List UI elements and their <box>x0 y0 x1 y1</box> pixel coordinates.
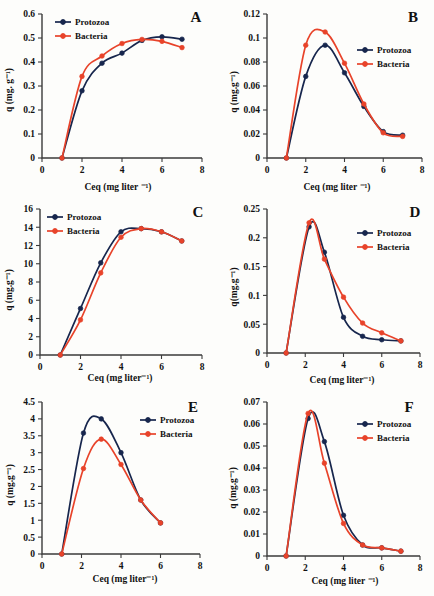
data-point-bacteria <box>119 235 124 240</box>
data-point-bacteria <box>341 521 346 526</box>
y-tick-label: 0.5 <box>23 33 35 43</box>
data-point-protozoa <box>160 35 165 40</box>
legend-label-bacteria: Bacteria <box>75 31 108 41</box>
x-tick-label: 0 <box>38 362 43 372</box>
x-tick-label: 2 <box>80 165 85 175</box>
data-point-protozoa <box>81 431 86 436</box>
data-point-bacteria <box>119 462 124 467</box>
y-tick-label: 0.05 <box>243 320 260 330</box>
legend-label-protozoa: Protozoa <box>160 415 195 425</box>
y-tick-label: 0.15 <box>243 262 260 272</box>
panel-letter: A <box>191 9 202 25</box>
x-axis-title: Ceq (mg liter ⁻¹) <box>84 182 151 193</box>
y-tick-label: 14 <box>24 223 34 233</box>
x-tick-label: 4 <box>120 165 125 175</box>
x-tick-label: 6 <box>379 563 384 573</box>
data-point-bacteria <box>303 43 308 48</box>
y-tick-label: 4 <box>28 314 33 324</box>
legend-marker-protozoa <box>53 215 58 220</box>
chart-panel-c: 024680246810121416Ceq (mg liter⁻¹)q (mg.… <box>0 195 217 390</box>
data-point-protozoa <box>341 315 346 320</box>
chart-panel-e: 0246800.511.522.533.544.5Ceq (mg liter⁻¹… <box>0 390 217 596</box>
legend-label-bacteria: Bacteria <box>377 433 410 443</box>
data-point-bacteria <box>322 461 327 466</box>
legend-label-bacteria: Bacteria <box>67 226 100 236</box>
x-tick-label: 6 <box>381 165 386 175</box>
data-point-bacteria <box>138 498 143 503</box>
data-point-bacteria <box>284 351 289 356</box>
panel-letter: E <box>188 399 198 415</box>
y-axis-title: q (mg.g⁻¹) <box>4 269 15 311</box>
y-axis-title: q (mg.g⁻¹) <box>229 71 240 113</box>
data-point-bacteria <box>81 466 86 471</box>
y-tick-label: 2 <box>30 482 35 492</box>
x-tick-label: 0 <box>265 563 270 573</box>
x-tick-label: 6 <box>379 360 384 370</box>
x-axis-title: Ceq (mg liter⁻¹) <box>310 375 375 386</box>
panel-letter: B <box>408 9 418 25</box>
y-tick-label: 0.06 <box>243 419 260 429</box>
data-point-bacteria <box>284 554 289 559</box>
y-tick-label: 4 <box>30 414 35 424</box>
y-tick-label: 0.04 <box>243 463 260 473</box>
data-point-bacteria <box>306 411 311 416</box>
x-tick-label: 8 <box>420 165 425 175</box>
x-tick-label: 4 <box>119 362 124 372</box>
y-tick-label: 3 <box>30 448 35 458</box>
data-point-bacteria <box>399 549 404 554</box>
data-point-bacteria <box>98 271 103 276</box>
y-tick-label: 0.05 <box>243 441 260 451</box>
y-tick-label: 10 <box>24 259 34 269</box>
x-tick-label: 4 <box>342 165 347 175</box>
y-tick-label: 0 <box>30 549 35 559</box>
y-tick-label: 0.04 <box>243 105 260 115</box>
data-point-bacteria <box>139 226 144 231</box>
y-axis-title: q (mg. g⁻¹) <box>4 68 15 112</box>
data-point-bacteria <box>160 39 165 44</box>
y-tick-label: 1 <box>30 516 35 526</box>
x-tick-label: 2 <box>303 360 308 370</box>
x-tick-label: 2 <box>303 563 308 573</box>
legend-marker-protozoa <box>363 422 368 427</box>
data-point-bacteria <box>80 74 85 79</box>
data-point-bacteria <box>342 61 347 66</box>
chart-panel-f: 0246800.010.020.030.040.050.060.07Ceq (m… <box>217 390 434 596</box>
y-tick-label: 0.01 <box>243 529 260 539</box>
y-tick-label: 0.1 <box>248 291 260 301</box>
data-point-protozoa <box>342 71 347 76</box>
y-axis-title: q (mg.g⁻¹) <box>228 467 239 509</box>
series-line-bacteria <box>60 228 182 355</box>
legend-marker-bacteria <box>363 245 368 250</box>
data-point-bacteria <box>140 37 145 42</box>
series-line-protozoa <box>62 416 161 554</box>
data-point-protozoa <box>322 439 327 444</box>
data-point-bacteria <box>58 353 63 358</box>
y-tick-label: 0.2 <box>248 233 260 243</box>
data-point-bacteria <box>323 30 328 35</box>
data-point-protozoa <box>360 334 365 339</box>
data-point-bacteria <box>60 156 65 161</box>
y-tick-label: 0.07 <box>243 397 260 407</box>
y-tick-label: 0 <box>255 153 260 163</box>
data-point-bacteria <box>158 521 163 526</box>
series-line-bacteria <box>62 439 161 554</box>
y-axis-title: q (mg.g⁻¹) <box>5 464 16 506</box>
legend-marker-bacteria <box>363 62 368 67</box>
data-point-protozoa <box>379 337 384 342</box>
x-tick-label: 2 <box>78 362 83 372</box>
legend-marker-protozoa <box>61 20 66 25</box>
x-axis-title: Ceq (mg liter⁻¹) <box>88 373 153 384</box>
data-point-bacteria <box>379 331 384 336</box>
y-tick-label: 8 <box>28 277 33 287</box>
legend-marker-bacteria <box>146 432 151 437</box>
x-tick-label: 4 <box>119 561 124 571</box>
legend-marker-protozoa <box>146 418 151 423</box>
y-tick-label: 0.4 <box>23 57 35 67</box>
data-point-bacteria <box>400 134 405 139</box>
data-point-bacteria <box>78 318 83 323</box>
chart-panel-b: 0246800.020.040.060.080.10.12Ceq (mg lit… <box>217 0 434 195</box>
x-tick-label: 4 <box>341 360 346 370</box>
x-tick-label: 8 <box>200 362 205 372</box>
data-point-protozoa <box>323 43 328 48</box>
chart-panel-a: 0246800.10.20.30.40.50.6Ceq (mg liter ⁻¹… <box>0 0 217 195</box>
